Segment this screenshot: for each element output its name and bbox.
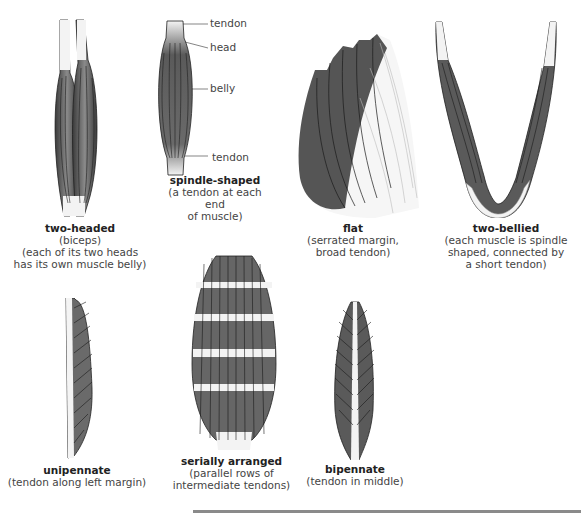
two-headed-caption: two-headed (biceps) (each of its two hea… bbox=[10, 222, 150, 270]
caption-line: (tendon along left margin) bbox=[2, 476, 152, 488]
caption-line: (each muscle is spindle bbox=[436, 234, 576, 246]
caption-line: (tendon in middle) bbox=[300, 475, 410, 487]
caption-line: (serrated margin, bbox=[298, 234, 408, 246]
head-label: head bbox=[210, 41, 236, 53]
caption-title: two-headed bbox=[10, 222, 150, 234]
caption-line: (a tendon at each end bbox=[160, 186, 270, 210]
caption-line: has its own muscle belly) bbox=[10, 258, 150, 270]
unipennate-muscle-illustration bbox=[64, 298, 100, 460]
two-headed-muscle-illustration bbox=[48, 18, 108, 218]
flat-caption: flat (serrated margin, broad tendon) bbox=[298, 222, 408, 258]
serially-arranged-muscle-illustration bbox=[184, 254, 284, 454]
spindle-shaped-caption: spindle-shaped (a tendon at each end of … bbox=[160, 174, 270, 222]
caption-line: of muscle) bbox=[160, 210, 270, 222]
caption-line: intermediate tendons) bbox=[164, 479, 299, 491]
two-bellied-muscle-illustration bbox=[432, 18, 572, 218]
caption-line: broad tendon) bbox=[298, 246, 408, 258]
caption-title: spindle-shaped bbox=[160, 174, 270, 186]
serially-arranged-caption: serially arranged (parallel rows of inte… bbox=[164, 455, 299, 491]
tendon-bottom-label: tendon bbox=[212, 151, 249, 163]
caption-title: unipennate bbox=[2, 464, 152, 476]
caption-line: a short tendon) bbox=[436, 258, 576, 270]
caption-line: shaped, connected by bbox=[436, 246, 576, 258]
flat-muscle-illustration bbox=[295, 18, 425, 218]
caption-title: flat bbox=[298, 222, 408, 234]
caption-line: (parallel rows of bbox=[164, 467, 299, 479]
bipennate-caption: bipennate (tendon in middle) bbox=[300, 463, 410, 487]
unipennate-caption: unipennate (tendon along left margin) bbox=[2, 464, 152, 488]
caption-title: serially arranged bbox=[164, 455, 299, 467]
caption-title: two-bellied bbox=[436, 222, 576, 234]
bottom-divider bbox=[193, 510, 581, 513]
bipennate-muscle-illustration bbox=[333, 300, 377, 460]
caption-line: (biceps) bbox=[10, 234, 150, 246]
two-bellied-caption: two-bellied (each muscle is spindle shap… bbox=[436, 222, 576, 270]
tendon-top-label: tendon bbox=[210, 17, 247, 29]
caption-line: (each of its two heads bbox=[10, 246, 150, 258]
belly-label: belly bbox=[210, 82, 235, 94]
caption-title: bipennate bbox=[300, 463, 410, 475]
